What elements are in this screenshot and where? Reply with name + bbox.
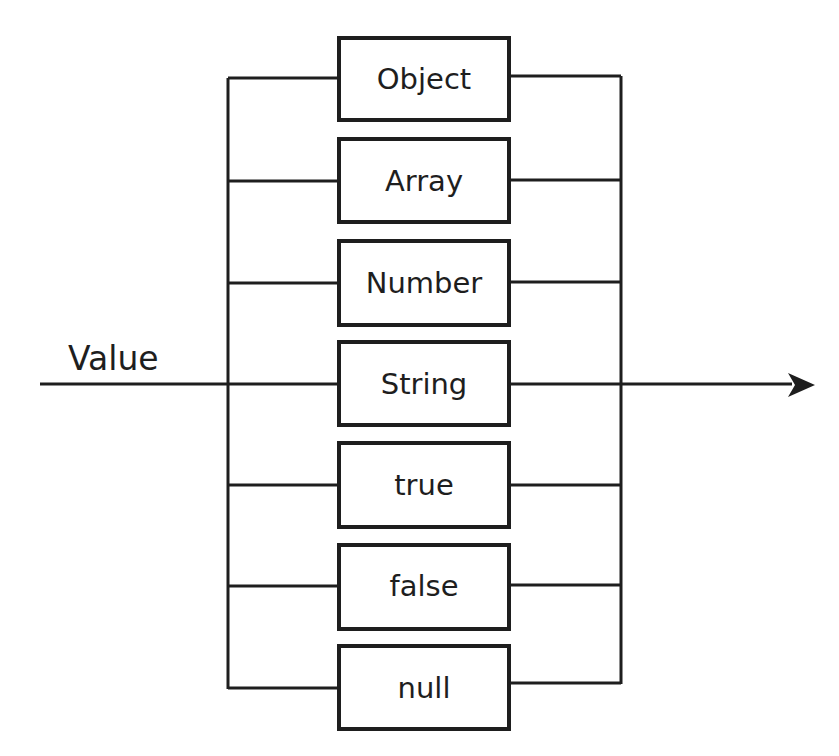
box-number: Number bbox=[339, 241, 509, 325]
box-object: Object bbox=[339, 38, 509, 120]
box-false: false bbox=[339, 545, 509, 629]
box-null: null bbox=[339, 646, 509, 729]
box-string: String bbox=[339, 342, 509, 425]
box-label: String bbox=[381, 367, 468, 401]
output-arrow-icon bbox=[788, 373, 815, 397]
box-label: Number bbox=[366, 266, 483, 300]
box-label: Object bbox=[377, 62, 471, 96]
box-label: true bbox=[394, 468, 454, 502]
box-true: true bbox=[339, 443, 509, 527]
box-label: Array bbox=[385, 164, 463, 198]
json-value-syntax-diagram: Object Array Number String true false nu… bbox=[0, 0, 839, 756]
box-label: false bbox=[390, 569, 459, 603]
box-label: null bbox=[398, 671, 451, 705]
input-label: Value bbox=[68, 339, 159, 378]
box-array: Array bbox=[339, 139, 509, 222]
